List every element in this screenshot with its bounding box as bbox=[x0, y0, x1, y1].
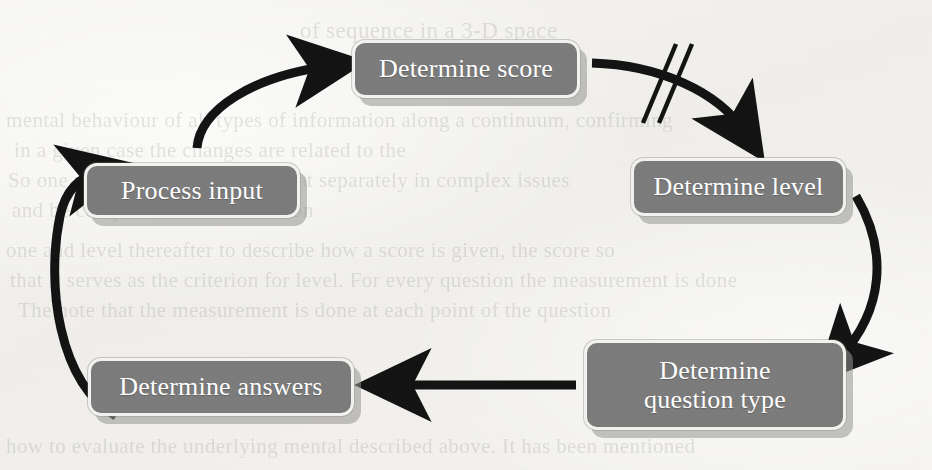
node-label: Determine answers bbox=[109, 372, 332, 401]
node-determine-score[interactable]: Determine score bbox=[352, 40, 580, 98]
edge-level-to-qtype bbox=[840, 196, 877, 357]
edge-process-to-score bbox=[197, 66, 330, 148]
node-label: Determine level bbox=[644, 172, 834, 201]
node-determine-level[interactable]: Determine level bbox=[631, 158, 846, 216]
node-process-input[interactable]: Process input bbox=[84, 163, 300, 218]
node-label-line1: Determine bbox=[659, 356, 771, 385]
node-determine-question-type[interactable]: Determine question type bbox=[584, 340, 846, 430]
diagram-canvas: of sequence in a 3-D space mental behavi… bbox=[0, 0, 932, 470]
node-label: Determine question type bbox=[634, 356, 796, 414]
node-label: Determine score bbox=[369, 54, 563, 83]
node-label: Process input bbox=[111, 176, 273, 205]
node-determine-answers[interactable]: Determine answers bbox=[88, 358, 354, 416]
node-label-line2: question type bbox=[644, 385, 786, 414]
